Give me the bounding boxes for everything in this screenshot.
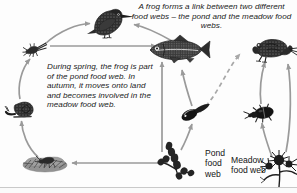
arrow-beetle-to-frog <box>260 62 265 104</box>
organism-kingfisher <box>87 9 134 38</box>
organism-fish <box>150 35 210 63</box>
arrow-mayfly-to-kingfisher <box>45 24 90 45</box>
organism-detritus <box>23 156 67 172</box>
arrow-detritus-to-snail <box>22 121 39 157</box>
label-pond-line-1: Pond <box>205 148 225 158</box>
organism-snail <box>5 102 33 117</box>
arrow-layer-dashed <box>200 54 240 112</box>
organism-frog <box>253 39 297 62</box>
organism-beetle <box>243 103 275 126</box>
arrow-snail-to-mayfly <box>19 59 30 99</box>
label-pond-line-3: web <box>205 169 225 179</box>
arrow-tadpole-to-fish <box>182 70 192 106</box>
label-meadow-food-web: Meadow food web <box>231 155 275 176</box>
food-web-diagram: A frog forms a link between two differen… <box>0 0 297 193</box>
organism-mayfly-nymph <box>23 43 48 57</box>
arrow-tadpole-to-frog-seasonal <box>200 54 240 112</box>
bottom-margin <box>0 188 297 193</box>
label-meadow-line-2: food web <box>231 165 275 175</box>
arrow-thistle-to-frog <box>286 64 290 152</box>
arrow-plant-to-tadpole <box>181 124 192 150</box>
caption-seasonal-note: During spring, the frog is part of the p… <box>47 62 159 110</box>
label-meadow-line-1: Meadow <box>231 155 275 165</box>
label-pond-food-web: Pond food web <box>205 148 225 179</box>
label-pond-line-2: food <box>205 158 225 168</box>
caption-frog-link: A frog forms a link between two differen… <box>130 2 293 31</box>
arrow-thistle-to-beetle <box>262 123 272 157</box>
